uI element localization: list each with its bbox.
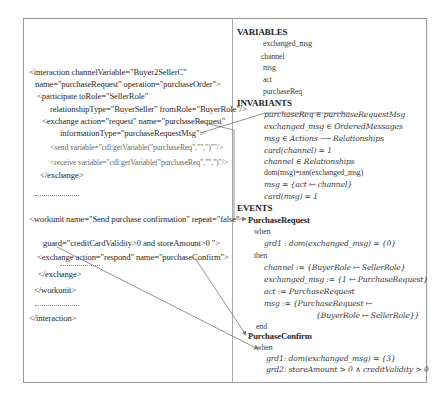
invariants-heading: INVARIANTS — [237, 98, 292, 108]
when-keyword: when — [256, 343, 273, 353]
code-line: relationshipType="BuyerSeller" fromRole=… — [50, 104, 247, 114]
action-item: exchanged_msg := {1 ↦ PurchaseRequest} — [264, 275, 428, 285]
code-line: <interaction channelVariable="Buyer2Sell… — [29, 67, 187, 77]
code-line: </workunit> — [34, 285, 76, 295]
invariant-item: exchanged_msg ∈ OrderedMessages — [264, 122, 403, 132]
code-line: </interaction> — [29, 313, 76, 323]
invariant-item: channel ∈ Relationships — [264, 157, 355, 167]
code-line: name="purchaseRequest" operation="purcha… — [35, 79, 221, 89]
code-line: <exchange action="request" name="purchas… — [42, 116, 225, 126]
action-item: {BuyerRole ↦ SellerRole}} — [316, 311, 419, 321]
action-item: act := PurchaseRequest — [264, 287, 354, 297]
variable-item: channel — [261, 52, 285, 62]
ellipsis-dots — [35, 305, 79, 306]
variable-item: act — [263, 75, 272, 85]
code-line: <workunit name="Send purchase confirmati… — [29, 214, 239, 224]
code-line: </exchange> — [38, 269, 81, 279]
action-item: channel := {BuyerRole ↦ SellerRole} — [264, 263, 405, 273]
code-line: <participate toRole="SellerRole" — [37, 91, 148, 101]
action-item: msg := {PurchaseRequest ↦ — [264, 299, 372, 309]
ellipsis-dots — [60, 265, 100, 266]
code-line: <receive variable="cdl:getVariable("purc… — [50, 158, 228, 168]
code-line: informationType="purchaseRequestMsg"> — [60, 128, 204, 138]
code-line: <exchange action="respond" name="purchas… — [37, 252, 229, 262]
code-line: <send variable="cdl:getVariable("purchas… — [50, 143, 223, 153]
invariant-item: msg = {act ↦ channel} — [264, 180, 352, 190]
ellipsis-dots — [35, 195, 79, 196]
events-heading: EVENTS — [237, 203, 272, 213]
variable-item: exchanged_msg — [263, 39, 312, 49]
guard-item: grd1: dom(exchanged_msg) = {3} — [266, 354, 396, 364]
code-line: guard="creditCardValidity>0 and storeAmo… — [43, 238, 220, 248]
event-purchase-confirm: PurchaseConfirm — [248, 331, 312, 341]
then-keyword: then — [254, 251, 267, 261]
when-keyword: when — [254, 227, 271, 237]
invariant-item: purchaseReq ∈ purchaseRequestMsg — [264, 110, 405, 120]
guard-item: grd1 : dom(exchanged_msg) = {0} — [264, 239, 396, 249]
variable-item: msg — [263, 63, 276, 73]
invariant-item: card(msg) = 1 — [264, 192, 318, 202]
event-purchase-request: PurchaseRequest — [248, 215, 310, 225]
column-divider — [232, 18, 233, 383]
variable-item: purchaseReq — [263, 87, 302, 97]
invariant-item: card(channel) = 1 — [264, 146, 332, 156]
variables-heading: VARIABLES — [237, 27, 287, 37]
invariant-item: dom(msg)=ran(exchanged_msg) — [264, 168, 363, 178]
code-line: </exchange> — [40, 170, 83, 180]
invariant-item: msg ∈ Actions ⟶ Relationships — [264, 134, 384, 144]
guard-item: grd2: storeAmount > 0 ∧ creditValidity >… — [266, 365, 429, 375]
